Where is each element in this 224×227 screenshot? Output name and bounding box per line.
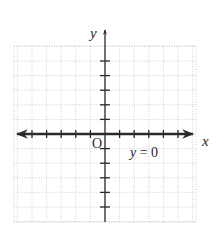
equation-label: y = 0: [128, 145, 158, 160]
equation-rest: = 0: [136, 145, 158, 160]
x-axis-label: x: [201, 133, 209, 149]
coordinate-plane: y x O y = 0: [0, 0, 224, 227]
y-axis-label: y: [88, 25, 97, 41]
origin-label: O: [92, 136, 102, 151]
